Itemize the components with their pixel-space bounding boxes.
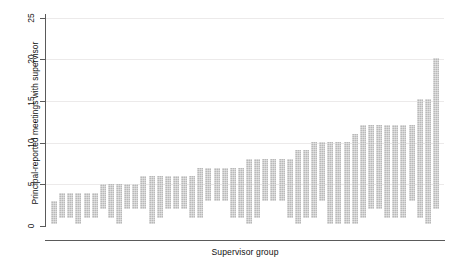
bar bbox=[165, 176, 171, 209]
bar bbox=[376, 125, 382, 209]
bar bbox=[92, 193, 98, 218]
bar bbox=[246, 159, 252, 225]
y-tick-mark bbox=[40, 143, 45, 144]
y-tick-label: 20 bbox=[26, 46, 36, 72]
y-tick-mark bbox=[40, 101, 45, 102]
bar bbox=[409, 125, 415, 201]
bar bbox=[181, 176, 187, 209]
bar bbox=[108, 184, 114, 217]
x-axis-line bbox=[45, 240, 445, 241]
bar bbox=[116, 184, 122, 224]
bar bbox=[311, 142, 317, 218]
plot-area bbox=[46, 14, 444, 230]
bar bbox=[205, 168, 211, 201]
bar bbox=[84, 193, 90, 218]
y-tick-label: 25 bbox=[26, 5, 36, 31]
bar bbox=[173, 176, 179, 209]
y-tick-label: 0 bbox=[26, 213, 36, 239]
bar bbox=[400, 125, 406, 217]
gridline bbox=[46, 18, 444, 19]
y-tick-mark bbox=[40, 18, 45, 19]
bar bbox=[262, 159, 268, 201]
bar bbox=[254, 159, 260, 218]
bar bbox=[287, 159, 293, 218]
bar bbox=[425, 99, 431, 224]
bar bbox=[368, 125, 374, 209]
clipped-header-text bbox=[96, 0, 396, 4]
y-tick-label: 10 bbox=[26, 130, 36, 156]
bar bbox=[319, 142, 325, 201]
y-tick-label: 15 bbox=[26, 88, 36, 114]
x-axis-title: Supervisor group bbox=[46, 247, 444, 257]
bar bbox=[327, 142, 333, 224]
bar bbox=[214, 168, 220, 201]
bar bbox=[417, 99, 423, 217]
gridline bbox=[46, 101, 444, 102]
bar bbox=[75, 193, 81, 225]
bar bbox=[360, 125, 366, 217]
bar bbox=[140, 176, 146, 209]
bar bbox=[270, 159, 276, 201]
y-tick-label: 5 bbox=[26, 171, 36, 197]
gridline bbox=[46, 59, 444, 60]
bar bbox=[303, 150, 309, 217]
figure-canvas: Principal-reported meetings with supervi… bbox=[0, 0, 453, 275]
bar bbox=[67, 193, 73, 218]
bar bbox=[335, 142, 341, 224]
bar bbox=[132, 184, 138, 209]
bar bbox=[238, 168, 244, 218]
bar bbox=[124, 184, 130, 209]
bar bbox=[344, 142, 350, 224]
bar bbox=[157, 176, 163, 218]
bar bbox=[197, 168, 203, 218]
bar bbox=[51, 201, 57, 224]
bar bbox=[100, 184, 106, 209]
bar bbox=[384, 125, 390, 217]
y-axis-line bbox=[45, 14, 46, 227]
bar bbox=[222, 168, 228, 201]
bar bbox=[295, 150, 301, 224]
y-tick-mark bbox=[40, 226, 45, 227]
bar bbox=[279, 159, 285, 201]
bar bbox=[189, 176, 195, 218]
bar bbox=[59, 193, 65, 218]
y-tick-mark bbox=[40, 59, 45, 60]
bar bbox=[392, 125, 398, 217]
bar bbox=[149, 176, 155, 224]
bar bbox=[433, 58, 439, 210]
y-tick-mark bbox=[40, 184, 45, 185]
bar bbox=[352, 134, 358, 225]
bar bbox=[230, 168, 236, 218]
